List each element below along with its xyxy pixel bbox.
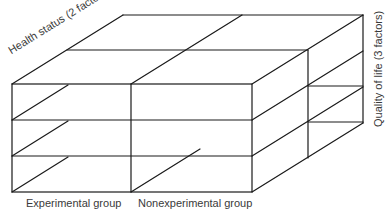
front-face (12, 84, 252, 192)
factorial-cube-diagram (0, 0, 387, 215)
cell-depth-left-2 (12, 121, 68, 156)
column-label-experimental: Experimental group (26, 197, 121, 209)
vertical-axis-label: Quality of life (3 factors) (372, 11, 384, 127)
cube-lines (12, 15, 363, 192)
cell-depth-left-1 (12, 85, 68, 120)
column-label-nonexperimental: Nonexperimental group (138, 197, 252, 209)
cell-depth-left-3 (12, 157, 68, 192)
